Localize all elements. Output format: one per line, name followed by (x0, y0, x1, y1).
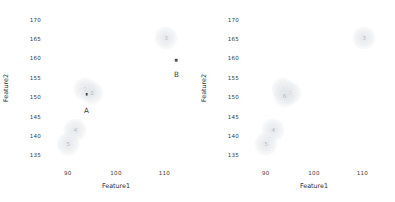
y-axis-label-right: Feature2 (200, 74, 208, 102)
y-tick-label: 150 (228, 94, 239, 100)
y-tick-label: 170 (228, 17, 239, 23)
annotation-label: A (84, 105, 89, 114)
y-tick-label: 165 (30, 36, 41, 42)
plot-area-left: 1351401451501551601651709010011012345AB (46, 12, 186, 165)
y-axis-label-left: Feature2 (2, 74, 10, 102)
chart-panel-left: 1351401451501551601651709010011012345AB … (0, 0, 197, 202)
y-tick-label: 135 (228, 152, 239, 158)
chart-panel-right: 13514014515015516016517090100110123456 F… (198, 0, 395, 202)
x-tick-label: 100 (110, 170, 121, 176)
scatter-figure: 1351401451501551601651709010011012345AB … (0, 0, 395, 202)
y-tick-label: 135 (30, 152, 41, 158)
y-tick-label: 150 (30, 94, 41, 100)
annotated-marker (85, 93, 88, 96)
y-tick-label: 155 (228, 75, 239, 81)
plot-area-right: 13514014515015516016517090100110123456 (244, 12, 384, 165)
annotation-label: B (174, 69, 179, 78)
y-tick-label: 145 (228, 114, 239, 120)
y-tick-label: 140 (30, 133, 41, 139)
scatter-point-label: 1 (83, 86, 86, 92)
x-tick-label: 110 (159, 170, 170, 176)
x-tick-label: 90 (262, 170, 270, 176)
scatter-point-label: 2 (90, 90, 93, 96)
y-tick-label: 165 (228, 36, 239, 42)
y-tick-label: 140 (228, 133, 239, 139)
scatter-point-label: 5 (264, 141, 267, 147)
scatter-point-label: 2 (288, 90, 291, 96)
scatter-point-label: 3 (362, 35, 365, 41)
y-tick-label: 155 (30, 75, 41, 81)
x-tick-label: 100 (308, 170, 319, 176)
x-axis-label-left: Feature1 (46, 182, 186, 190)
scatter-point-label: 3 (164, 35, 167, 41)
y-tick-label: 145 (30, 114, 41, 120)
x-axis-label-right: Feature1 (244, 182, 384, 190)
y-tick-label: 170 (30, 17, 41, 23)
x-tick-label: 110 (357, 170, 368, 176)
scatter-point-label: 4 (272, 127, 275, 133)
y-tick-label: 160 (228, 55, 239, 61)
scatter-point-label: 5 (66, 141, 69, 147)
y-tick-label: 160 (30, 55, 41, 61)
scatter-point-label: 4 (74, 127, 77, 133)
annotated-marker (175, 59, 178, 62)
scatter-point-label: 1 (281, 86, 284, 92)
x-tick-label: 90 (64, 170, 72, 176)
scatter-point-label: 6 (283, 93, 286, 99)
